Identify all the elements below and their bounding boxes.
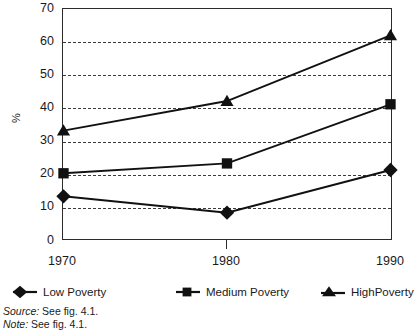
footnote-note-keyword: Note: xyxy=(3,318,28,330)
data-point-low-poverty-1980 xyxy=(220,206,234,220)
chart-legend: Low Poverty Medium Poverty HighPoverty xyxy=(0,285,408,303)
plot-area xyxy=(62,8,392,240)
y-tick-70: 70 xyxy=(26,2,54,14)
series-layer xyxy=(63,9,391,239)
data-point-medium-poverty-1970 xyxy=(58,168,68,178)
legend-item-low-poverty[interactable]: Low Poverty xyxy=(12,285,106,299)
diamond-marker-icon xyxy=(12,285,38,299)
legend-item-high-poverty[interactable]: HighPoverty xyxy=(320,285,414,299)
y-tick-20: 20 xyxy=(26,167,54,179)
y-tick-40: 40 xyxy=(26,101,54,113)
footnote-note-text: See fig. 4.1. xyxy=(28,318,87,330)
data-point-highpoverty-1990 xyxy=(384,29,397,40)
y-axis-tick-labels: 70 60 50 40 30 20 10 0 xyxy=(22,0,54,250)
legend-label-low-poverty: Low Poverty xyxy=(43,286,106,298)
x-tick-mark-1980 xyxy=(226,240,227,249)
footnote-source-text: See fig. 4.1. xyxy=(39,305,98,317)
x-tick-1970: 1970 xyxy=(38,254,86,268)
footnote-source-keyword: Source: xyxy=(3,305,39,317)
y-tick-60: 60 xyxy=(26,35,54,47)
data-point-medium-poverty-1980 xyxy=(222,158,232,168)
data-point-low-poverty-1970 xyxy=(56,189,70,203)
legend-label-high-poverty: HighPoverty xyxy=(351,286,414,298)
data-point-highpoverty-1980 xyxy=(220,95,233,106)
footnote-source: Source: See fig. 4.1. xyxy=(3,306,98,317)
x-tick-1980: 1980 xyxy=(202,254,250,268)
y-tick-30: 30 xyxy=(26,134,54,146)
x-tick-1990: 1990 xyxy=(366,254,414,268)
y-tick-10: 10 xyxy=(26,200,54,212)
legend-item-medium-poverty[interactable]: Medium Poverty xyxy=(175,285,289,299)
footnote-note: Note: See fig. 4.1. xyxy=(3,319,98,330)
triangle-marker-icon xyxy=(320,285,346,299)
data-point-medium-poverty-1990 xyxy=(385,99,395,109)
y-axis-title: % xyxy=(10,98,22,138)
series-group xyxy=(56,29,397,220)
square-marker-icon xyxy=(175,285,201,299)
data-point-low-poverty-1990 xyxy=(383,163,397,177)
legend-label-medium-poverty: Medium Poverty xyxy=(206,286,289,298)
series-line-highpoverty xyxy=(63,35,390,130)
footnotes: Source: See fig. 4.1. Note: See fig. 4.1… xyxy=(3,306,98,331)
y-tick-50: 50 xyxy=(26,68,54,80)
y-tick-0: 0 xyxy=(26,234,54,246)
